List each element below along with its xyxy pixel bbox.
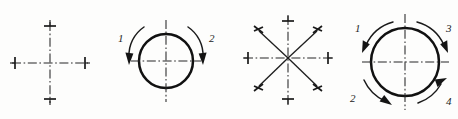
figure-3-tick-lower-left: [254, 84, 263, 91]
figure-3-spoke-upper-right: [288, 31, 317, 58]
figure-2-group: 1 2: [118, 20, 215, 102]
figure-3-tick-lower-right: [313, 84, 322, 91]
figure-4-arrow-3-label: 3: [445, 22, 452, 34]
figure-4-arrow-1-arc: [366, 22, 393, 45]
figure-1-group: [10, 20, 90, 105]
figure-2-arrow-2-arc: [188, 27, 203, 57]
figure-4-arrow-1-label: 1: [355, 22, 361, 34]
figure-2-arrow-1-arc: [129, 27, 144, 57]
figure-2-arrow-2-head: [199, 53, 207, 65]
figure-3-tick-upper-left: [254, 26, 263, 33]
figure-2-arrow-2-label: 2: [209, 32, 215, 44]
figure-4-arrow-2-label: 2: [350, 92, 356, 104]
figure-4-group: 1 2 3 4: [350, 14, 452, 110]
figure-4-arrow-3-head: [440, 40, 448, 53]
figure-1-crosshair-axes: 1 2: [0, 0, 458, 119]
figure-3-tick-upper-right: [313, 26, 322, 33]
figure-4-arrow-4-label: 4: [446, 95, 452, 107]
figure-4-arrow-3-arc: [417, 22, 444, 45]
figure-2-arrow-1-label: 1: [118, 32, 124, 44]
figure-3-spoke-lower-left: [259, 58, 288, 86]
figure-2-arrow-1-head: [125, 53, 133, 65]
figure-3-group: [243, 15, 333, 105]
figure-3-spoke-upper-left: [259, 31, 288, 58]
figure-4-arrow-1-head: [362, 40, 370, 53]
figure-4-arrow-2-arc: [364, 80, 385, 101]
figure-4-arrow-2-head: [380, 95, 392, 105]
figure-3-spoke-lower-right: [288, 58, 317, 86]
figure-sheet: 1 2: [0, 0, 458, 119]
